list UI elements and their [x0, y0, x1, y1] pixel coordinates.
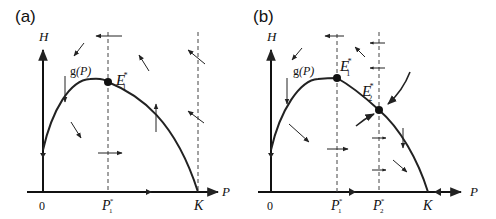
flow-arrow — [355, 47, 365, 57]
flow-arrow — [289, 124, 309, 142]
x-axis-left-arrowhead — [434, 188, 441, 196]
y-axis-down-arrowhead — [40, 153, 46, 158]
x-axis-label: P — [221, 184, 230, 199]
panel-b: (b) H P 0 E*1 E*2 g(P) P*1 P*2 K — [253, 7, 478, 215]
panel-b-label: (b) — [253, 7, 274, 26]
x-axis-right-arrowhead — [146, 189, 152, 195]
origin-label: 0 — [267, 199, 273, 213]
phase-portrait-figure: (a) H P 0 E*1 g(P) P*1 K ( — [0, 0, 496, 219]
equilibrium-e1 — [333, 74, 341, 82]
p1-star-label: P*1 — [330, 197, 343, 215]
panel-a-label: (a) — [15, 7, 36, 26]
flow-arrow — [139, 55, 149, 71]
flow-arrow — [188, 111, 204, 123]
panel-a: (a) H P 0 E*1 g(P) P*1 K — [15, 7, 230, 215]
equilibrium-e2 — [375, 106, 383, 114]
y-axis-label: H — [38, 29, 49, 44]
g-curve — [271, 78, 428, 192]
g-curve-label: g(P) — [293, 64, 314, 78]
origin-label: 0 — [39, 199, 45, 213]
x-axis-right-arrowhead — [349, 188, 356, 196]
p2-star-label: P*2 — [372, 197, 385, 215]
flow-arrow — [188, 50, 205, 64]
stable-manifold-arrow — [388, 72, 410, 104]
p1-star-label: P*1 — [101, 197, 114, 215]
flow-arrow — [71, 122, 81, 138]
stable-manifold-arrow — [356, 114, 374, 126]
k-label: K — [193, 198, 204, 213]
y-axis-label: H — [266, 29, 277, 44]
g-curve-label: g(P) — [70, 64, 91, 78]
equilibrium-e1-label: E*1 — [339, 57, 351, 78]
flow-arrow — [292, 48, 302, 60]
flow-arrow — [74, 43, 84, 56]
x-axis-label: P — [469, 184, 478, 199]
g-curve — [43, 79, 198, 192]
equilibrium-e1 — [104, 78, 112, 86]
flow-arrow — [393, 160, 407, 172]
y-axis-down-arrowhead — [268, 153, 274, 158]
k-label: K — [422, 198, 433, 213]
